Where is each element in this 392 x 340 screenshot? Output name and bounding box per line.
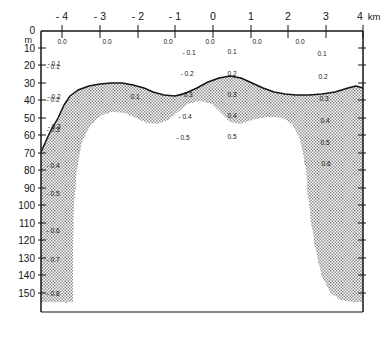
contour-label-zero: 0.0: [163, 38, 172, 45]
x-tick-label: 0: [210, 10, 216, 22]
contour-label-peak: 0.1: [130, 93, 139, 100]
contour-label-mid-neg: - 0.4: [178, 113, 192, 120]
contour-label-zero: 0.0: [57, 38, 66, 45]
contour-label-negative: - 0.6: [46, 227, 60, 234]
contour-label-mid-neg: - 0.3: [179, 91, 193, 98]
y-tick-label: 30: [24, 78, 36, 89]
contour-label-mid-neg: - 0.5: [176, 134, 190, 141]
y-tick-label: 100: [18, 200, 35, 211]
contour-label-right-pos: 0.1: [317, 50, 326, 57]
y-tick-label: 60: [24, 130, 36, 141]
y-tick-label: 20: [24, 60, 36, 71]
contour-label-zero: 0.0: [205, 38, 214, 45]
contour-label-mid-pos: 0.1: [227, 48, 236, 55]
x-tick-label: - 3: [94, 10, 106, 22]
figure-panel: - 4 - 3 - 2 - 1 0 1 2 3 4 km 0 10 20 30 …: [0, 0, 392, 340]
y-tick-label: 110: [19, 218, 35, 229]
contour-label-mid-pos: 0.2: [227, 70, 236, 77]
contour-label-zero: 0.0: [102, 38, 111, 45]
y-tick-labels: 0 10 20 30 40 50 60 70 80 90 100 110 120…: [18, 25, 35, 299]
x-tick-label: 3: [323, 10, 329, 22]
x-tick-label: - 1: [169, 10, 181, 22]
contour-label-right-pos: 0.4: [320, 117, 329, 124]
contour-label-right-pos: 0.3: [319, 95, 328, 102]
contour-label-left-neg: - 0.1: [47, 60, 61, 67]
y-tick-label: 50: [24, 113, 36, 124]
y-tick-label: 40: [24, 95, 36, 106]
y-tick-label: 70: [24, 148, 36, 159]
y-tick-label: 150: [18, 288, 35, 299]
y-axis-unit-label: m: [25, 35, 33, 45]
cross-section-plot: - 4 - 3 - 2 - 1 0 1 2 3 4 km 0 10 20 30 …: [0, 0, 392, 340]
x-tick-label: 2: [285, 10, 291, 22]
contour-label-left-neg: - 0.3: [47, 123, 61, 130]
contour-label-left-neg: - 0.2: [47, 93, 61, 100]
contour-label-mid-neg: - 0.1: [182, 49, 196, 56]
contour-label-mid-pos: 0.5: [227, 133, 236, 140]
x-tick-label: - 4: [56, 10, 68, 22]
x-tick-label: - 2: [132, 10, 144, 22]
contour-label-mid-neg: - 0.2: [180, 70, 194, 77]
x-tick-labels: - 4 - 3 - 2 - 1 0 1 2 3 4: [56, 10, 363, 22]
y-tick-label: 120: [18, 235, 35, 246]
y-tick-label: 130: [18, 253, 35, 264]
contour-label-right-pos: 0.2: [318, 73, 327, 80]
contour-label-negative: - 0.8: [46, 290, 60, 297]
contour-label-right-pos: 0.5: [320, 139, 329, 146]
y-tick-label: 90: [24, 183, 36, 194]
x-tick-label: 1: [248, 10, 254, 22]
contour-label-zero: 0.0: [295, 38, 304, 45]
contour-label-zero: 0.0: [252, 38, 261, 45]
contour-label-negative: - 0.4: [46, 162, 60, 169]
contour-label-mid-pos: 0.4: [227, 112, 236, 119]
y-tick-label: 80: [24, 165, 36, 176]
x-axis-unit-label: km: [368, 11, 381, 22]
contour-label-mid-pos: 0.3: [227, 91, 236, 98]
x-tick-label: 4: [357, 10, 363, 22]
contour-label-negative: - 0.7: [46, 256, 60, 263]
contour-label-negative: - 0.5: [46, 190, 60, 197]
contour-label-right-pos: 0.6: [321, 160, 330, 167]
y-tick-label: 140: [18, 270, 35, 281]
terrain-group: [41, 76, 363, 302]
